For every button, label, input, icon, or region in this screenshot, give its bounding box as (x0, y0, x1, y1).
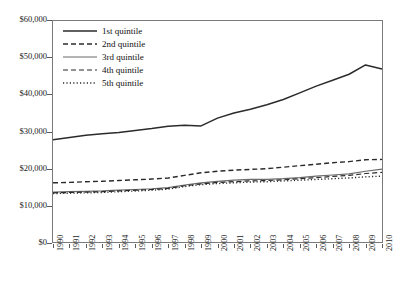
x-axis-tick-label: 2001 (237, 235, 245, 251)
x-axis-tick-label: 1997 (172, 235, 180, 251)
legend-line-swatch-icon (63, 39, 97, 49)
legend-item[interactable]: 1st quintile (63, 24, 145, 37)
series-line-3 (53, 169, 382, 192)
x-axis-tick-label: 1992 (89, 235, 97, 251)
x-axis-tick-mark (283, 244, 284, 248)
y-axis-tick-label: $40,000 (19, 89, 47, 98)
x-axis-tick-mark (152, 244, 153, 248)
legend-line-swatch-icon (63, 65, 97, 75)
y-axis-tick-label: $10,000 (19, 201, 47, 210)
legend-item[interactable]: 4th quintile (63, 63, 145, 76)
legend-item-label: 4th quintile (102, 65, 143, 75)
legend-item[interactable]: 2nd quintile (63, 37, 145, 50)
x-axis-tick-mark (185, 244, 186, 248)
x-axis-tick-mark (102, 244, 103, 248)
x-axis-tick-mark (119, 244, 120, 248)
x-axis-tick-label: 2003 (270, 235, 278, 251)
legend-line-swatch-icon (63, 78, 97, 88)
y-axis-tick-label: $0 (39, 238, 48, 247)
y-axis-tick-mark (47, 243, 52, 244)
y-axis-tick-mark (47, 57, 52, 58)
legend-item-label: 1st quintile (102, 26, 142, 36)
y-axis-tick-mark (47, 20, 52, 21)
y-axis-tick-label: $20,000 (19, 164, 47, 173)
x-axis-tick-mark (234, 244, 235, 248)
legend-item[interactable]: 5th quintile (63, 76, 145, 89)
x-axis-tick-mark (218, 244, 219, 248)
x-axis-tick-label: 2002 (254, 235, 262, 251)
x-axis-tick-mark (300, 244, 301, 248)
y-axis-tick-mark (47, 94, 52, 95)
x-axis-tick-label: 2006 (320, 235, 328, 251)
x-axis-tick-mark (53, 244, 54, 248)
x-axis-tick-label: 1994 (122, 235, 130, 251)
x-axis-tick-label: 2004 (287, 235, 295, 251)
legend-item-label: 3rd quintile (102, 52, 144, 62)
x-axis-tick-mark (250, 244, 251, 248)
x-axis-tick-label: 1999 (205, 235, 213, 251)
x-axis-tick-mark (349, 244, 350, 248)
y-axis-label-group: $60,000$50,000$40,000$30,000$20,000$10,0… (0, 0, 47, 295)
x-axis-tick-label: 1996 (155, 235, 163, 251)
x-axis-tick-label: 2005 (303, 235, 311, 251)
x-axis-tick-label: 2007 (336, 235, 344, 251)
x-axis-tick-mark (382, 244, 383, 248)
x-axis-tick-mark (316, 244, 317, 248)
y-axis-tick-label: $30,000 (19, 127, 47, 136)
x-axis-tick-label: 1995 (139, 235, 147, 251)
legend-item-label: 2nd quintile (102, 39, 145, 49)
legend-line-swatch-icon (63, 26, 97, 36)
series-line-2 (53, 159, 382, 182)
x-axis-tick-label: 1998 (188, 235, 196, 251)
x-axis-tick-label: 2009 (369, 235, 377, 251)
legend-line-swatch-icon (63, 52, 97, 62)
x-axis-tick-mark (201, 244, 202, 248)
x-axis-tick-label: 2010 (386, 235, 394, 251)
y-axis-tick-mark (47, 206, 52, 207)
y-axis-tick-mark (47, 132, 52, 133)
x-axis-tick-mark (168, 244, 169, 248)
x-axis-tick-mark (69, 244, 70, 248)
line-chart: $60,000$50,000$40,000$30,000$20,000$10,0… (0, 0, 397, 295)
y-axis-tick-label: $50,000 (19, 52, 47, 61)
chart-legend: 1st quintile2nd quintile3rd quintile4th … (63, 24, 145, 89)
legend-item[interactable]: 3rd quintile (63, 50, 145, 63)
x-axis-tick-mark (333, 244, 334, 248)
x-axis-tick-mark (86, 244, 87, 248)
x-axis-tick-label: 1991 (73, 235, 81, 251)
x-axis-tick-label: 2000 (221, 235, 229, 251)
x-axis-tick-mark (135, 244, 136, 248)
legend-item-label: 5th quintile (102, 78, 143, 88)
x-axis-tick-mark (267, 244, 268, 248)
x-axis-tick-label: 1993 (106, 235, 114, 251)
x-axis-tick-label: 1990 (57, 235, 65, 251)
y-axis-tick-mark (47, 169, 52, 170)
x-axis-tick-label: 2008 (353, 235, 361, 251)
x-axis-tick-mark (366, 244, 367, 248)
y-axis-tick-label: $60,000 (19, 15, 47, 24)
